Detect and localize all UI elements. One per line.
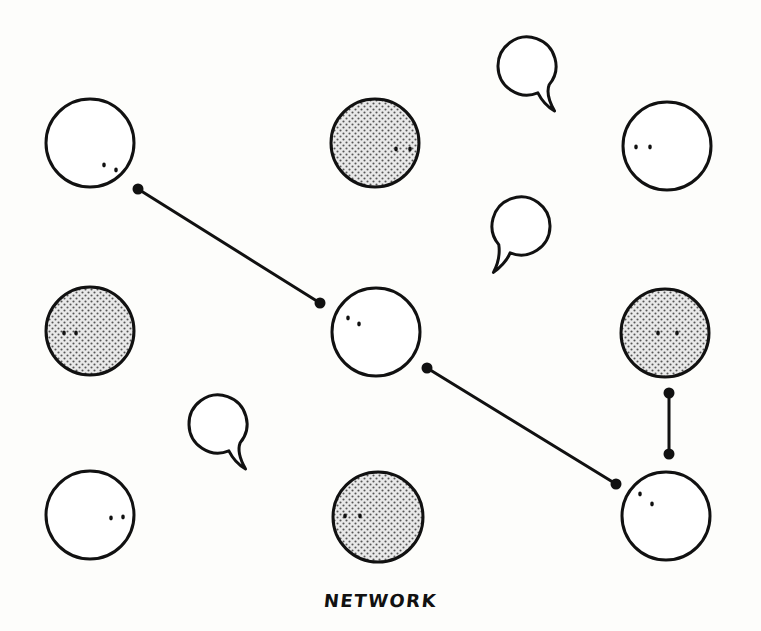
eye-dot-icon <box>121 515 125 520</box>
speech-bubble-icon <box>189 395 247 469</box>
eye-dot-icon <box>109 516 113 521</box>
eye-dot-icon <box>394 147 398 152</box>
link-endpoint-dot <box>664 388 675 399</box>
eye-dot-icon <box>656 331 660 336</box>
eye-dot-icon <box>346 316 350 321</box>
link-endpoint-dot <box>664 449 675 460</box>
eye-dot-icon <box>408 147 412 152</box>
link-endpoint-dot <box>611 479 622 490</box>
node-n3-plain <box>623 102 711 190</box>
link-l2 <box>422 363 622 490</box>
diagram-caption: NETWORK <box>0 590 761 611</box>
link-l1 <box>133 184 326 309</box>
network-diagram <box>0 0 761 631</box>
eye-dot-icon <box>634 145 638 150</box>
node-n4-dotted <box>46 287 134 375</box>
eye-dot-icon <box>102 163 106 168</box>
node-n1-plain <box>46 99 134 187</box>
node-n7-plain <box>46 471 134 559</box>
eye-dot-icon <box>358 514 362 519</box>
link-l3 <box>664 388 675 460</box>
speech-bubble-icon <box>498 37 556 111</box>
eye-dot-icon <box>648 145 652 150</box>
link-endpoint-dot <box>315 298 326 309</box>
eye-dot-icon <box>638 492 642 497</box>
eye-dot-icon <box>62 331 66 336</box>
nodes-layer <box>46 99 711 562</box>
eye-dot-icon <box>74 331 78 336</box>
node-n2-dotted <box>331 99 419 187</box>
node-n6-dotted <box>621 289 709 377</box>
eye-dot-icon <box>343 514 347 519</box>
node-n5-plain <box>332 288 420 376</box>
link-endpoint-dot <box>422 363 433 374</box>
eye-dot-icon <box>114 168 118 173</box>
link-endpoint-dot <box>133 184 144 195</box>
eye-dot-icon <box>650 502 654 507</box>
node-n8-dotted <box>333 472 423 562</box>
node-n9-plain <box>622 472 710 560</box>
speech-bubble-icon <box>492 197 550 272</box>
eye-dot-icon <box>675 331 679 336</box>
eye-dot-icon <box>357 322 361 327</box>
